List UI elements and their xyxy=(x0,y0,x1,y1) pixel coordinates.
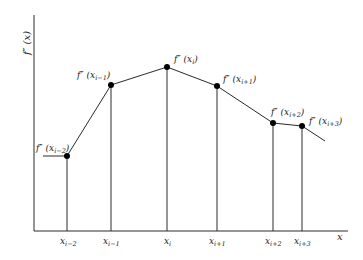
point-i-plus-1 xyxy=(214,83,220,89)
value-label-i: f″ (xi) xyxy=(173,54,198,66)
value-label-i-minus-2: f″ (xi−2) xyxy=(35,143,70,155)
piecewise-linear-diagram: f″ (x) x f″ (xi−2) f″ (xi−1) f″ (xi) f″ … xyxy=(0,0,363,260)
point-i-plus-3 xyxy=(299,123,305,129)
value-label-i-minus-1: f″ (xi−1) xyxy=(76,70,111,82)
point-i xyxy=(164,64,170,70)
point-i-plus-2 xyxy=(270,120,276,126)
value-label-i-plus-3: f″ (xi+3) xyxy=(308,116,343,128)
tick-label-i-minus-2: xi−2 xyxy=(60,236,77,248)
tick-label-i-plus-1: xi+1 xyxy=(209,236,226,248)
value-label-i-plus-1: f″ (xi+1) xyxy=(222,74,257,86)
y-axis-label: f″ (x) xyxy=(21,31,32,56)
tick-label-i-minus-1: xi−1 xyxy=(103,236,120,248)
point-i-minus-1 xyxy=(108,82,114,88)
drop-lines xyxy=(67,67,302,231)
value-label-i-plus-2: f″ (xi+2) xyxy=(270,107,305,119)
tick-label-i: xi xyxy=(164,236,171,248)
tick-label-i-plus-2: xi+2 xyxy=(265,236,282,248)
tick-label-i-plus-3: xi+3 xyxy=(294,236,311,248)
x-axis-label: x xyxy=(337,231,343,242)
